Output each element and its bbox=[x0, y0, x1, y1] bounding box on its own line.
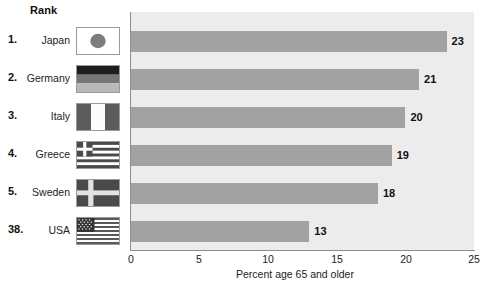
row-country: Italy bbox=[0, 110, 70, 122]
row-country: Greece bbox=[0, 148, 70, 160]
table-row: 4. Greece bbox=[0, 140, 122, 170]
flag-germany bbox=[76, 65, 120, 93]
flag-japan bbox=[76, 27, 120, 55]
flag-greece bbox=[76, 141, 120, 169]
bar-usa bbox=[131, 221, 309, 242]
table-row: 5. Sweden bbox=[0, 178, 122, 208]
row-country: Japan bbox=[0, 34, 70, 46]
bar-italy bbox=[131, 107, 405, 128]
x-axis-label-text: Percent age 65 and older bbox=[236, 268, 354, 280]
x-tick-20: 20 bbox=[400, 253, 412, 265]
row-country: USA bbox=[0, 224, 70, 236]
bar-sweden bbox=[131, 183, 378, 204]
x-tick-0: 0 bbox=[128, 253, 134, 265]
x-tick-10: 10 bbox=[262, 253, 274, 265]
x-axis-line bbox=[130, 250, 475, 251]
x-tick-5: 5 bbox=[196, 253, 202, 265]
table-row: 1. Japan bbox=[0, 26, 122, 56]
table-row: 2. Germany bbox=[0, 64, 122, 94]
row-country: Sweden bbox=[0, 186, 70, 198]
bar-value-japan: 23 bbox=[452, 31, 464, 52]
bar-germany bbox=[131, 69, 419, 90]
bar-japan bbox=[131, 31, 447, 52]
bar-value-usa: 13 bbox=[314, 221, 326, 242]
bar-value-germany: 21 bbox=[424, 69, 436, 90]
bar-value-greece: 19 bbox=[397, 145, 409, 166]
flag-usa bbox=[76, 217, 120, 245]
table-row: 3. Italy bbox=[0, 102, 122, 132]
bar-greece bbox=[131, 145, 392, 166]
table-row: 38. USA bbox=[0, 216, 122, 246]
x-axis-label: Percent age 65 and older bbox=[0, 268, 490, 280]
x-tick-15: 15 bbox=[331, 253, 343, 265]
rank-column-header: Rank bbox=[30, 4, 57, 16]
chart-root: Rank 1. Japan 2. Germany 3. Italy bbox=[0, 0, 490, 295]
bar-value-italy: 20 bbox=[410, 107, 422, 128]
flag-italy bbox=[76, 103, 120, 131]
row-country: Germany bbox=[0, 72, 70, 84]
bar-value-sweden: 18 bbox=[383, 183, 395, 204]
flag-sweden bbox=[76, 179, 120, 207]
x-tick-25: 25 bbox=[468, 253, 480, 265]
